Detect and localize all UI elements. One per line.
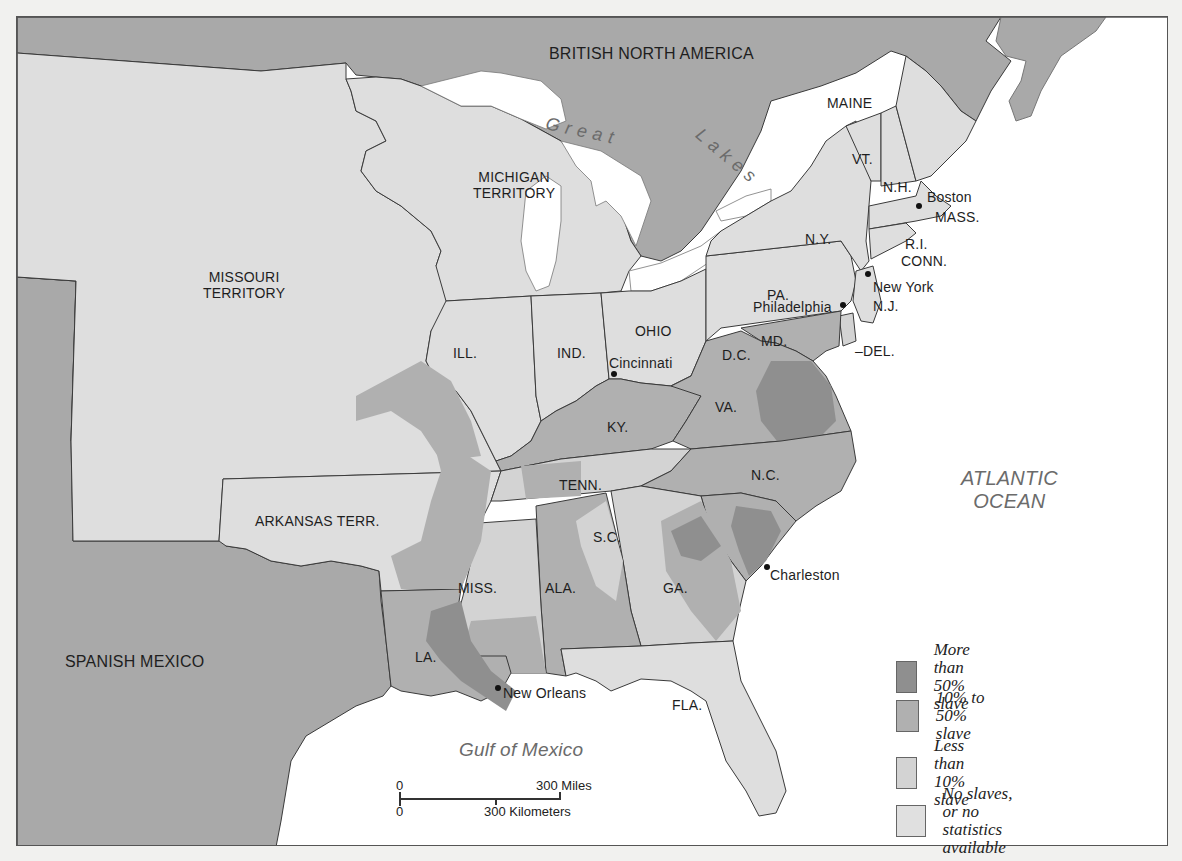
label-atlantic-ocean: ATLANTIC OCEAN xyxy=(961,467,1058,513)
legend-swatch-more-than-50 xyxy=(896,661,917,693)
label-md: MD. xyxy=(761,333,787,349)
label-british-north-america: BRITISH NORTH AMERICA xyxy=(549,45,754,63)
scale-line xyxy=(399,798,561,800)
scale-tick-miles xyxy=(559,792,561,799)
city-dot-cincinnati xyxy=(611,371,617,377)
label-dc: D.C. xyxy=(722,347,751,363)
scale-zero-miles: 0 xyxy=(396,778,403,793)
label-conn: CONN. xyxy=(901,253,947,269)
label-ny: N.Y. xyxy=(805,231,831,247)
label-del: –DEL. xyxy=(855,343,895,359)
label-sc: S.C. xyxy=(593,529,621,545)
city-charleston: Charleston xyxy=(770,567,840,583)
label-ill: ILL. xyxy=(453,345,477,361)
label-ky: KY. xyxy=(607,419,628,435)
scale-km-label: 300 Kilometers xyxy=(484,804,571,819)
label-ga: GA. xyxy=(663,580,688,596)
legend-swatch-less-than-10 xyxy=(896,757,917,789)
label-ohio: OHIO xyxy=(635,323,672,339)
city-dot-boston xyxy=(916,203,922,209)
label-ri: R.I. xyxy=(905,236,928,252)
label-gulf-of-mexico: Gulf of Mexico xyxy=(459,739,583,761)
legend-swatch-10-to-50 xyxy=(896,700,919,732)
label-nh: N.H. xyxy=(883,179,912,195)
label-ala: ALA. xyxy=(545,580,576,596)
label-va: VA. xyxy=(715,399,737,415)
city-dot-new-orleans xyxy=(495,685,501,691)
label-missouri-territory: MISSOURI TERRITORY xyxy=(203,269,285,301)
city-cincinnati: Cincinnati xyxy=(609,355,672,371)
legend-item-10-to-50: 10% to 50% slave xyxy=(896,689,994,743)
label-vt: VT. xyxy=(852,151,873,167)
scale-zero-km: 0 xyxy=(396,804,403,819)
label-ind: IND. xyxy=(557,345,586,361)
city-dot-new-york xyxy=(865,271,871,277)
legend-swatch-no-slaves xyxy=(896,805,926,837)
label-fla: FLA. xyxy=(672,697,702,713)
label-michigan-territory: MICHIGAN TERRITORY xyxy=(473,169,555,201)
legend-label-no-slaves: No slaves, or no statistics available xyxy=(943,785,1023,856)
city-dot-philadelphia xyxy=(840,302,846,308)
label-tenn: TENN. xyxy=(559,477,602,493)
label-spanish-mexico: SPANISH MEXICO xyxy=(65,653,204,671)
legend-item-no-slaves: No slaves, or no statistics available xyxy=(896,785,1022,856)
city-philadelphia: Philadelphia xyxy=(753,299,832,315)
city-boston: Boston xyxy=(927,189,972,205)
label-la: LA. xyxy=(415,649,437,665)
label-maine: MAINE xyxy=(827,95,872,111)
legend-label-10-to-50: 10% to 50% slave xyxy=(936,689,994,743)
label-arkansas-territory: ARKANSAS TERR. xyxy=(255,513,380,529)
city-new-york: New York xyxy=(873,279,934,295)
scale-bar: 0 300 Miles 0 300 Kilometers xyxy=(396,778,576,838)
label-miss: MISS. xyxy=(458,580,497,596)
map-frame: BRITISH NORTH AMERICA Great Lakes MICHIG… xyxy=(16,16,1168,846)
scale-miles-label: 300 Miles xyxy=(536,778,592,793)
city-new-orleans: New Orleans xyxy=(503,685,586,701)
label-nj: N.J. xyxy=(873,298,899,314)
label-nc: N.C. xyxy=(751,467,780,483)
label-mass: MASS. xyxy=(935,209,980,225)
